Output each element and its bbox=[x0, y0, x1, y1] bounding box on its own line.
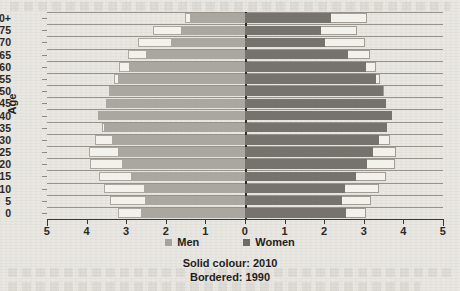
bar-women-2010 bbox=[245, 74, 376, 84]
y-axis-label: 15 bbox=[0, 170, 11, 182]
population-pyramid-chart: Age 80+757065605550454035302520151050 54… bbox=[0, 0, 460, 291]
bar-men-2010 bbox=[110, 86, 245, 96]
x-axis-tick bbox=[126, 219, 127, 224]
x-axis-tick bbox=[87, 219, 88, 224]
x-axis-tick bbox=[324, 219, 325, 224]
y-axis-label: 50 bbox=[0, 85, 11, 97]
bar-women-2010 bbox=[245, 147, 373, 157]
bar-men-2010 bbox=[145, 196, 245, 206]
bar-women-2010 bbox=[245, 135, 379, 145]
bar-men-2010 bbox=[131, 172, 245, 182]
bar-men-2010 bbox=[190, 13, 245, 23]
x-axis-tick bbox=[285, 219, 286, 224]
x-axis-tick bbox=[403, 219, 404, 224]
bar-men-2010 bbox=[146, 50, 245, 60]
caption-line-bordered: Bordered: 1990 bbox=[0, 270, 460, 284]
y-axis-label: 0 bbox=[5, 207, 11, 219]
bar-women-2010 bbox=[245, 159, 367, 169]
legend-swatch-women-icon bbox=[243, 239, 250, 246]
bar-men-2010 bbox=[99, 111, 246, 121]
legend-swatch-men-icon bbox=[165, 239, 172, 246]
bar-women-2010 bbox=[245, 184, 345, 194]
bar-women-2010 bbox=[245, 62, 366, 72]
bar-women-2010 bbox=[245, 99, 386, 109]
bar-men-2010 bbox=[104, 123, 245, 133]
bar-men-2010 bbox=[112, 135, 245, 145]
bar-women-2010 bbox=[245, 50, 348, 60]
x-axis-tick bbox=[205, 219, 206, 224]
bar-men-2010 bbox=[181, 26, 245, 36]
bar-men-2010 bbox=[122, 159, 245, 169]
y-axis-label: 10 bbox=[0, 183, 11, 195]
legend-item-men: Men bbox=[165, 236, 199, 248]
y-axis-label: 80+ bbox=[0, 12, 11, 24]
y-axis-label: 25 bbox=[0, 146, 11, 158]
bar-women-2010 bbox=[245, 111, 392, 121]
bar-men-2010 bbox=[118, 147, 246, 157]
y-axis-label: 40 bbox=[0, 110, 11, 122]
chart-caption: Solid colour: 2010 Bordered: 1990 bbox=[0, 256, 460, 284]
y-axis-label: 5 bbox=[5, 195, 11, 207]
legend: Men Women bbox=[0, 236, 460, 248]
bar-women-2010 bbox=[245, 196, 342, 206]
y-axis-label: 60 bbox=[0, 61, 11, 73]
y-axis-label: 35 bbox=[0, 122, 11, 134]
y-axis-label: 30 bbox=[0, 134, 11, 146]
bar-men-2010 bbox=[129, 62, 245, 72]
bar-women-2010 bbox=[245, 26, 321, 36]
bar-men-2010 bbox=[106, 99, 245, 109]
bar-men-2010 bbox=[171, 38, 245, 48]
bar-women-2010 bbox=[245, 86, 383, 96]
bar-women-2010 bbox=[245, 208, 346, 218]
legend-label-men: Men bbox=[177, 236, 199, 248]
x-axis-tick bbox=[245, 219, 246, 224]
x-axis-tick bbox=[364, 219, 365, 224]
bar-men-2010 bbox=[141, 208, 245, 218]
plot-area bbox=[47, 12, 443, 219]
x-axis-tick bbox=[166, 219, 167, 224]
y-axis-label: 75 bbox=[0, 24, 11, 36]
bar-women-2010 bbox=[245, 172, 356, 182]
bar-men-2010 bbox=[144, 184, 245, 194]
y-axis-label: 70 bbox=[0, 36, 11, 48]
bar-men-2010 bbox=[118, 74, 246, 84]
bar-women-2010 bbox=[245, 38, 325, 48]
y-axis-label: 20 bbox=[0, 158, 11, 170]
bar-women-2010 bbox=[245, 13, 331, 23]
y-axis-label: 55 bbox=[0, 73, 11, 85]
y-axis-label: 45 bbox=[0, 97, 11, 109]
legend-label-women: Women bbox=[255, 236, 295, 248]
y-axis-label: 65 bbox=[0, 49, 11, 61]
bar-women-2010 bbox=[245, 123, 387, 133]
legend-item-women: Women bbox=[243, 236, 295, 248]
caption-line-solid: Solid colour: 2010 bbox=[0, 256, 460, 270]
